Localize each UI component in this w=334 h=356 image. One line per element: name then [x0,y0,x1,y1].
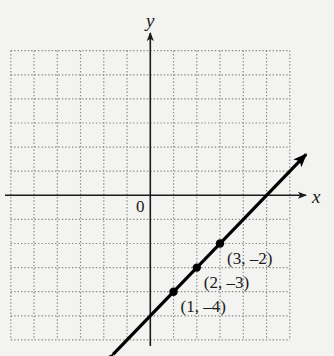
origin-label: 0 [136,197,145,216]
data-point [169,288,177,296]
data-point-label: (3, –2) [227,249,272,268]
data-point [193,263,201,271]
x-axis-label: x [311,186,321,207]
data-points: (1, –4)(2, –3)(3, –2) [169,239,272,315]
line-y-equals-x-minus-5 [113,154,306,354]
coordinate-plane: x y 0 (1, –4)(2, –3)(3, –2) [0,0,334,356]
data-point-label: (2, –3) [204,273,249,292]
y-axis-label: y [144,10,155,31]
data-point-label: (1, –4) [181,297,226,316]
data-point [216,239,224,247]
